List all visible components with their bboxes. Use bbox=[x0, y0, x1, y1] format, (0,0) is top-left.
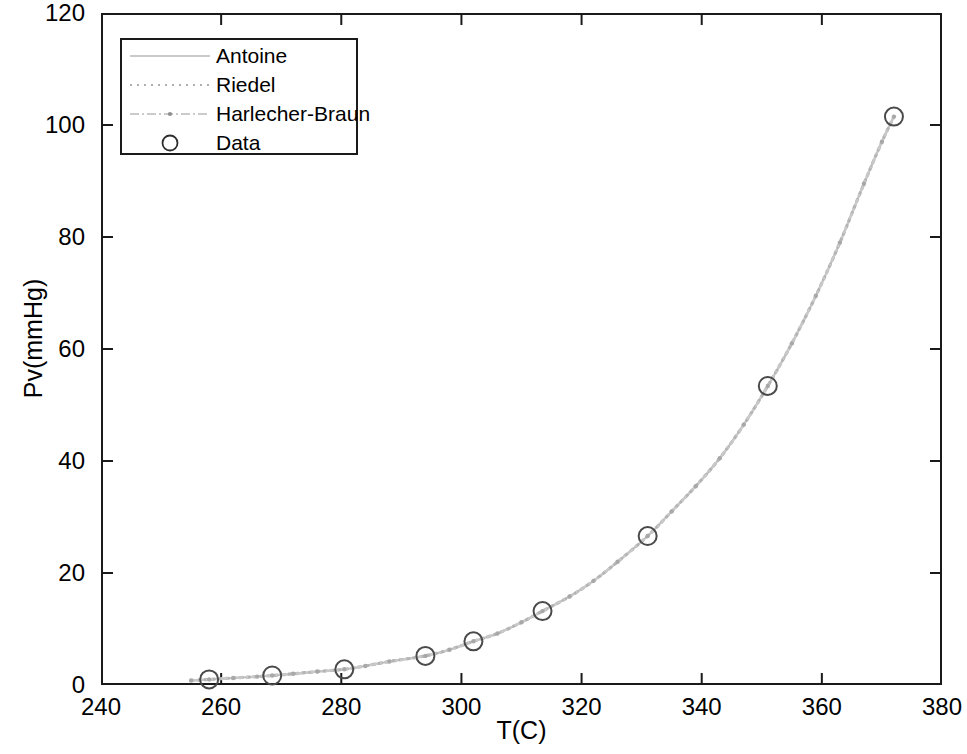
chart-legend: Antoine Riedel Harlecher-Braun bbox=[120, 38, 358, 155]
data-point-markers bbox=[200, 108, 903, 689]
curve-sample-marker bbox=[880, 140, 884, 144]
curve-sample-marker bbox=[519, 620, 523, 624]
x-axis-title: T(C) bbox=[101, 716, 942, 745]
curve-sample-marker bbox=[790, 341, 794, 345]
curve-sample-marker bbox=[495, 631, 499, 635]
y-tick-label-40: 40 bbox=[0, 449, 85, 473]
fitted-curves bbox=[189, 114, 896, 682]
curve-harlecher-braun bbox=[191, 117, 894, 681]
dotted-line-key bbox=[128, 75, 212, 95]
curve-sample-marker bbox=[387, 659, 391, 663]
curve-sample-marker bbox=[694, 484, 698, 488]
legend-label-data: Data bbox=[216, 132, 260, 153]
solid-line-key bbox=[128, 46, 212, 66]
curve-sample-marker bbox=[838, 240, 842, 244]
y-tick-label-0: 0 bbox=[0, 673, 85, 697]
curve-sample-marker bbox=[567, 594, 571, 598]
curve-sample-marker bbox=[231, 676, 235, 680]
curve-sample-marker bbox=[363, 664, 367, 668]
legend-item-data: Data bbox=[122, 128, 356, 157]
curve-riedel bbox=[191, 117, 894, 681]
y-tick-label-100: 100 bbox=[0, 113, 85, 137]
curve-sample-marker bbox=[291, 672, 295, 676]
curve-sample-marker bbox=[892, 114, 896, 118]
curve-sample-marker bbox=[315, 669, 319, 673]
curve-antoine bbox=[191, 117, 894, 681]
vapor-pressure-chart-figure: 020406080100120 240260280300320340360380… bbox=[0, 0, 967, 754]
curve-sample-marker bbox=[814, 294, 818, 298]
curve-sample-marker bbox=[645, 534, 649, 538]
curve-sample-marker bbox=[862, 182, 866, 186]
curve-sample-marker bbox=[766, 384, 770, 388]
y-tick-label-120: 120 bbox=[0, 1, 85, 25]
y-tick-label-80: 80 bbox=[0, 225, 85, 249]
curve-sample-marker bbox=[591, 579, 595, 583]
y-axis-title: Pv(mmHg) bbox=[19, 259, 48, 419]
curve-sample-marker bbox=[742, 422, 746, 426]
legend-label-riedel: Riedel bbox=[216, 74, 276, 95]
legend-item-antoine: Antoine bbox=[122, 41, 356, 70]
legend-label-antoine: Antoine bbox=[216, 45, 287, 66]
curve-sample-marker bbox=[207, 677, 211, 681]
curve-sample-marker bbox=[718, 456, 722, 460]
legend-label-harlecher-braun: Harlecher-Braun bbox=[216, 103, 370, 124]
curve-sample-marker bbox=[615, 560, 619, 564]
curve-sample-marker bbox=[342, 667, 346, 671]
dashdot-marker-key bbox=[128, 104, 212, 124]
curve-sample-marker bbox=[669, 509, 673, 513]
legend-item-harlecher-braun: Harlecher-Braun bbox=[122, 99, 356, 128]
legend-item-riedel: Riedel bbox=[122, 70, 356, 99]
curve-sample-marker bbox=[471, 639, 475, 643]
curve-sample-marker bbox=[423, 654, 427, 658]
curve-sample-marker bbox=[255, 674, 259, 678]
open-circle-key bbox=[128, 133, 212, 153]
curve-sample-marker bbox=[540, 609, 544, 613]
curve-sample-marker bbox=[270, 673, 274, 677]
curve-sample-marker bbox=[447, 648, 451, 652]
curve-sample-marker bbox=[189, 678, 193, 682]
y-tick-label-20: 20 bbox=[0, 561, 85, 585]
